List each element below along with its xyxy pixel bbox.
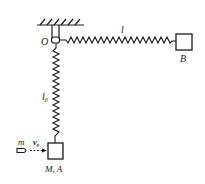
vertical-spring — [53, 43, 59, 143]
ceiling-support — [37, 19, 84, 25]
vertical-spring-length-label: l0 — [42, 91, 48, 103]
box-b-label: B — [180, 53, 186, 64]
horizontal-spring-length-label: l — [121, 24, 124, 35]
box-a — [48, 143, 63, 159]
bullet — [17, 149, 26, 153]
bullet-mass-label: m — [18, 137, 25, 147]
velocity-arrow — [30, 149, 47, 153]
box-b — [176, 34, 192, 50]
horizontal-spring — [60, 37, 177, 43]
pivot-label: O — [41, 36, 48, 47]
box-a-label: M, A — [44, 164, 63, 174]
bullet-velocity-label: v0 — [33, 138, 40, 148]
pivot-mount — [52, 25, 60, 43]
spring-mass-diagram: O l B l0 M, A m v0 — [0, 0, 205, 184]
